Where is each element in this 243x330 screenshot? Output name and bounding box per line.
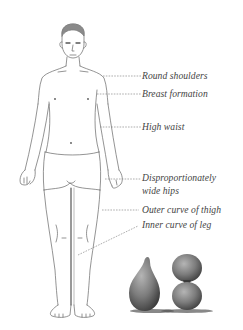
label-wide-hips-line1: Disproportionately xyxy=(142,172,216,183)
pear-shape xyxy=(129,257,174,313)
figure-illustration xyxy=(0,0,243,330)
label-high-waist: High waist xyxy=(142,121,184,132)
label-round-shoulders: Round shoulders xyxy=(142,70,208,81)
label-outer-curve-thigh: Outer curve of thigh xyxy=(142,204,221,215)
label-breast-formation: Breast formation xyxy=(142,88,208,99)
diagram-canvas: Round shoulders Breast formation High wa… xyxy=(0,0,243,330)
label-wide-hips-line2: wide hips xyxy=(142,185,179,196)
hourglass-shape xyxy=(161,254,213,313)
human-figure xyxy=(20,24,122,317)
hair xyxy=(62,24,84,36)
label-inner-curve-leg: Inner curve of leg xyxy=(142,219,211,230)
